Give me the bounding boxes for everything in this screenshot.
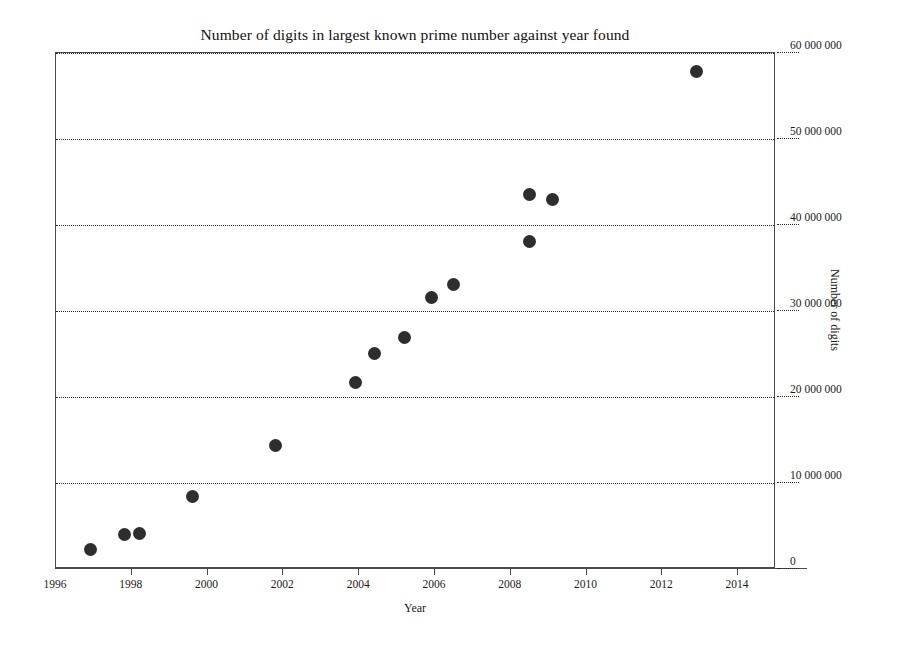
data-point bbox=[546, 193, 559, 206]
gridline-stub bbox=[777, 396, 799, 397]
gridline-horizontal bbox=[56, 483, 774, 484]
x-axis-tick-label: 2004 bbox=[347, 578, 370, 590]
data-point bbox=[84, 543, 97, 556]
x-axis-tick-label: 1998 bbox=[119, 578, 142, 590]
x-axis-tick bbox=[358, 568, 359, 575]
data-point bbox=[398, 331, 411, 344]
y-axis-tick-label: 40 000 000 bbox=[790, 211, 842, 223]
gridline-horizontal bbox=[56, 397, 774, 398]
gridline-horizontal bbox=[56, 311, 774, 312]
gridline-horizontal bbox=[56, 139, 774, 140]
y-axis-tick-label: 20 000 000 bbox=[790, 383, 842, 395]
y-axis-tick-label: 0 bbox=[790, 555, 796, 567]
data-point bbox=[523, 235, 536, 248]
gridline-stub bbox=[777, 224, 799, 225]
x-axis-tick bbox=[586, 568, 587, 575]
y-axis-tick-label: 10 000 000 bbox=[790, 469, 842, 481]
gridline-stub bbox=[777, 52, 799, 53]
y-axis-label: Number of digits bbox=[827, 269, 842, 351]
x-axis-tick-label: 2008 bbox=[498, 578, 521, 590]
data-point bbox=[368, 347, 381, 360]
data-point bbox=[133, 527, 146, 540]
x-axis-tick bbox=[55, 561, 56, 569]
chart-figure: Number of digits in largest known prime … bbox=[0, 0, 915, 646]
x-axis-tick bbox=[434, 568, 435, 575]
x-axis-tick bbox=[207, 568, 208, 575]
data-point bbox=[349, 376, 362, 389]
y-axis-tick-label: 50 000 000 bbox=[790, 125, 842, 137]
x-axis-tick-label: 2002 bbox=[271, 578, 294, 590]
gridline-stub bbox=[777, 310, 799, 311]
data-point bbox=[269, 439, 282, 452]
y-axis-tick-label: 60 000 000 bbox=[790, 39, 842, 51]
x-axis-tick-label: 2010 bbox=[574, 578, 597, 590]
gridline-horizontal bbox=[56, 225, 774, 226]
x-axis-tick bbox=[131, 568, 132, 575]
x-axis-line bbox=[55, 568, 807, 569]
data-point bbox=[690, 65, 703, 78]
gridline-stub bbox=[777, 138, 799, 139]
data-point bbox=[523, 188, 536, 201]
x-axis-tick bbox=[737, 568, 738, 575]
x-axis-tick-label: 2012 bbox=[650, 578, 673, 590]
x-axis-tick-label: 2006 bbox=[422, 578, 445, 590]
x-axis-label: Year bbox=[0, 601, 830, 616]
data-point bbox=[186, 490, 199, 503]
x-axis-tick-label: 1996 bbox=[44, 578, 67, 590]
x-axis-tick bbox=[282, 568, 283, 575]
x-axis-tick-label: 2000 bbox=[195, 578, 218, 590]
gridline-stub bbox=[777, 568, 799, 569]
plot-inner bbox=[56, 53, 774, 567]
plot-area bbox=[55, 52, 775, 568]
data-point bbox=[447, 278, 460, 291]
x-axis-tick bbox=[510, 568, 511, 575]
data-point bbox=[425, 291, 438, 304]
gridline-stub bbox=[777, 482, 799, 483]
chart-title: Number of digits in largest known prime … bbox=[0, 26, 830, 44]
data-point bbox=[118, 528, 131, 541]
x-axis-tick-label: 2014 bbox=[726, 578, 749, 590]
y-axis-tick-label: 30 000 000 bbox=[790, 297, 842, 309]
x-axis-tick bbox=[661, 568, 662, 575]
gridline-horizontal bbox=[56, 53, 774, 54]
